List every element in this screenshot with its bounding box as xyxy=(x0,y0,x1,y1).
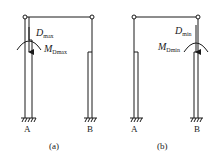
caption-a: (a) xyxy=(49,141,59,151)
fixed-support-a-icon xyxy=(130,118,143,122)
hinge-icon xyxy=(196,15,200,19)
caption-b: (b) xyxy=(157,141,168,151)
hinge-icon xyxy=(132,15,136,19)
hinge-icon xyxy=(90,15,94,19)
support-label-a: A xyxy=(131,124,138,134)
moment-label-a: MDmax xyxy=(43,43,67,55)
fixed-support-b-icon xyxy=(84,118,97,122)
force-label-a: Dmax xyxy=(35,27,54,39)
support-label-a: A xyxy=(24,124,31,134)
frame-b xyxy=(130,15,208,122)
force-label-b: Dmin xyxy=(174,25,192,37)
support-label-b: B xyxy=(87,124,93,134)
moment-label-b: MDmin xyxy=(157,41,180,53)
fixed-support-b-icon xyxy=(190,118,203,122)
frame-a xyxy=(17,15,97,122)
hinge-icon xyxy=(23,15,27,19)
fixed-support-a-icon xyxy=(21,118,36,122)
support-label-b: B xyxy=(194,124,200,134)
portal-frame-diagrams: Dmax MDmax A B (a) xyxy=(0,0,222,161)
